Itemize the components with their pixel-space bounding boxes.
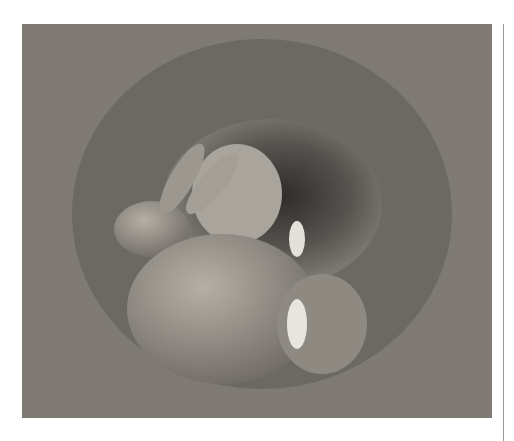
rabbit-burrow-photo <box>22 24 492 418</box>
photo-illustration <box>22 24 492 418</box>
vertical-rule <box>503 24 504 441</box>
